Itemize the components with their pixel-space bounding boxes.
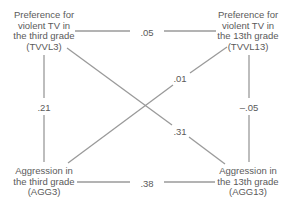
node-tvvl3-line-4: (TVVL3) [0,42,89,53]
node-agg13: Aggression in the 13th grade (AGG13) [203,166,290,198]
coef-agg3-tvvl13: .01 [173,73,186,84]
coef-agg3-agg13: .38 [140,178,153,189]
coef-tvvl3-agg3: .21 [37,102,50,113]
coef-tvvl3-agg13: .31 [173,126,186,137]
edge-tvvl3-agg13-lower [189,137,225,164]
node-tvvl13-line-4: (TVVL13) [203,42,290,53]
node-tvvl3: Preference for violent TV in the third g… [0,10,89,52]
node-agg3: Aggression in the third grade (AGG3) [0,166,89,198]
edge-agg3-tvvl13-lower [68,85,173,163]
node-tvvl3-line-1: Preference for [0,10,89,21]
coef-tvvl3-tvvl13: .05 [140,27,153,38]
node-agg13-line-3: (AGG13) [203,187,290,198]
node-tvvl13-line-1: Preference for [203,10,290,21]
node-agg13-line-1: Aggression in [203,166,290,177]
coef-tvvl13-agg13: –.05 [240,102,259,113]
cross-lagged-diagram: Preference for violent TV in the third g… [0,0,290,209]
edge-tvvl3-agg13-upper [67,48,172,125]
node-agg3-line-1: Aggression in [0,166,89,177]
node-tvvl13: Preference for violent TV in the 13th gr… [203,10,290,52]
node-agg3-line-3: (AGG3) [0,187,89,198]
